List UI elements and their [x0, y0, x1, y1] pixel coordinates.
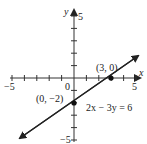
origin-label: 0 [65, 81, 70, 92]
x-axis-label: x [138, 67, 144, 78]
y-max-label: 5 [78, 11, 83, 22]
point-x-intercept [108, 75, 113, 80]
x-max-label: 5 [132, 81, 137, 92]
y-min-label: −5 [60, 134, 71, 144]
x-min-label: −5 [4, 81, 15, 92]
point-y-intercept [71, 100, 76, 105]
y-axis-label: y [63, 6, 69, 17]
y-intercept-label: (0, −2) [36, 93, 63, 105]
equation-label: 2x − 3y = 6 [86, 102, 132, 113]
y-axis [71, 10, 77, 142]
x-axis [10, 75, 140, 81]
x-intercept-label: (3, 0) [96, 62, 118, 74]
coordinate-plane: x y −5 5 0 5 −5 (3, 0) (0, −2) 2x − 3y =… [0, 0, 147, 144]
